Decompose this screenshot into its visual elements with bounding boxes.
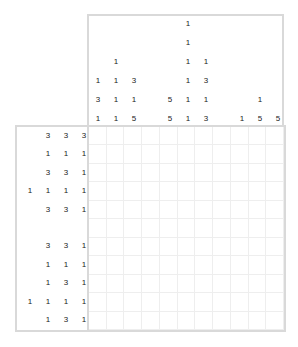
grid-cell[interactable] [124, 164, 142, 182]
grid-cell[interactable] [160, 293, 178, 311]
grid-cell[interactable] [142, 182, 160, 200]
grid-cell[interactable] [89, 256, 107, 274]
grid-cell[interactable] [142, 293, 160, 311]
grid-cell[interactable] [266, 127, 284, 145]
grid-cell[interactable] [107, 164, 125, 182]
grid-cell[interactable] [142, 256, 160, 274]
grid-cell[interactable] [142, 238, 160, 256]
grid-cell[interactable] [266, 256, 284, 274]
grid-cell[interactable] [231, 164, 249, 182]
grid-cell[interactable] [89, 293, 107, 311]
grid-cell[interactable] [160, 127, 178, 145]
grid-cell[interactable] [160, 145, 178, 163]
grid-cell[interactable] [213, 238, 231, 256]
grid-cell[interactable] [124, 127, 142, 145]
grid-cell[interactable] [89, 127, 107, 145]
grid-cell[interactable] [107, 275, 125, 293]
grid-cell[interactable] [142, 275, 160, 293]
grid-cell[interactable] [178, 201, 196, 219]
grid-cell[interactable] [249, 219, 267, 237]
grid-cell[interactable] [195, 256, 213, 274]
grid-cell[interactable] [266, 219, 284, 237]
grid-cell[interactable] [124, 201, 142, 219]
grid-cell[interactable] [266, 164, 284, 182]
grid-cell[interactable] [231, 312, 249, 330]
grid-cell[interactable] [142, 219, 160, 237]
grid-cell[interactable] [231, 293, 249, 311]
grid-cell[interactable] [266, 201, 284, 219]
grid-cell[interactable] [89, 201, 107, 219]
grid-cell[interactable] [142, 201, 160, 219]
grid-cell[interactable] [178, 238, 196, 256]
grid-cell[interactable] [124, 219, 142, 237]
grid-cell[interactable] [231, 182, 249, 200]
grid-cell[interactable] [249, 182, 267, 200]
grid-cell[interactable] [160, 275, 178, 293]
grid-cell[interactable] [178, 164, 196, 182]
grid-cell[interactable] [124, 312, 142, 330]
grid-cell[interactable] [249, 238, 267, 256]
grid-cell[interactable] [213, 182, 231, 200]
grid-cell[interactable] [213, 201, 231, 219]
grid-cell[interactable] [213, 164, 231, 182]
grid-cell[interactable] [107, 145, 125, 163]
grid-cell[interactable] [213, 219, 231, 237]
grid-cell[interactable] [249, 164, 267, 182]
grid-cell[interactable] [195, 201, 213, 219]
grid-cell[interactable] [107, 238, 125, 256]
grid-cell[interactable] [213, 145, 231, 163]
grid-cell[interactable] [231, 127, 249, 145]
grid-cell[interactable] [195, 275, 213, 293]
grid-cell[interactable] [89, 238, 107, 256]
grid-cell[interactable] [249, 275, 267, 293]
grid-cell[interactable] [213, 127, 231, 145]
grid-cell[interactable] [195, 182, 213, 200]
grid-cell[interactable] [160, 312, 178, 330]
grid-cell[interactable] [195, 145, 213, 163]
grid-cell[interactable] [89, 312, 107, 330]
grid-cell[interactable] [89, 164, 107, 182]
grid-cell[interactable] [160, 164, 178, 182]
grid-cell[interactable] [107, 256, 125, 274]
grid-cell[interactable] [142, 127, 160, 145]
grid-cell[interactable] [266, 275, 284, 293]
grid-cell[interactable] [89, 275, 107, 293]
grid-cell[interactable] [160, 219, 178, 237]
grid-cell[interactable] [160, 182, 178, 200]
grid-cell[interactable] [249, 201, 267, 219]
grid-cell[interactable] [249, 312, 267, 330]
grid-cell[interactable] [195, 219, 213, 237]
grid-cell[interactable] [231, 238, 249, 256]
grid-cell[interactable] [107, 201, 125, 219]
grid-cell[interactable] [178, 145, 196, 163]
grid-cell[interactable] [195, 312, 213, 330]
grid-cell[interactable] [124, 238, 142, 256]
grid-cell[interactable] [266, 293, 284, 311]
puzzle-grid[interactable] [87, 125, 286, 332]
grid-cell[interactable] [231, 275, 249, 293]
grid-cell[interactable] [266, 238, 284, 256]
grid-cell[interactable] [107, 127, 125, 145]
grid-cell[interactable] [160, 238, 178, 256]
grid-cell[interactable] [124, 256, 142, 274]
grid-cell[interactable] [107, 312, 125, 330]
grid-cell[interactable] [124, 145, 142, 163]
grid-cell[interactable] [213, 293, 231, 311]
grid-cell[interactable] [124, 182, 142, 200]
grid-cell[interactable] [160, 256, 178, 274]
grid-cell[interactable] [249, 127, 267, 145]
grid-cell[interactable] [249, 145, 267, 163]
grid-cell[interactable] [231, 219, 249, 237]
grid-cell[interactable] [249, 293, 267, 311]
grid-cell[interactable] [213, 256, 231, 274]
grid-cell[interactable] [89, 219, 107, 237]
grid-cell[interactable] [124, 275, 142, 293]
grid-cell[interactable] [213, 312, 231, 330]
grid-cell[interactable] [178, 293, 196, 311]
grid-cell[interactable] [231, 201, 249, 219]
grid-cell[interactable] [142, 164, 160, 182]
grid-cell[interactable] [178, 256, 196, 274]
grid-cell[interactable] [178, 219, 196, 237]
grid-cell[interactable] [107, 182, 125, 200]
grid-cell[interactable] [107, 219, 125, 237]
